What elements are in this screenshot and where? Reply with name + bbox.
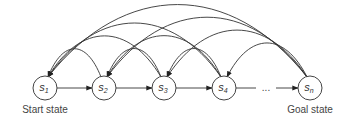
arc-sn-s4 [227,43,307,77]
arc-sn-s2 [107,17,307,77]
arc-s2-s1 [48,49,101,77]
arc-sn-s1 [48,5,307,77]
backward-arcs [48,5,307,77]
state-node-s3: s3 [152,76,176,100]
state-caption: Goal state [287,104,333,115]
ellipsis-label: ... [262,82,270,93]
arc-s4-s3 [167,49,221,77]
state-nodes: s1Start states2s3s4snGoal state [22,76,333,115]
arc-s4-s1 [48,23,221,77]
state-transition-diagram: s1Start states2s3s4snGoal state ... [0,0,355,122]
state-node-s2: s2 [92,76,116,100]
state-node-s1: s1Start state [22,76,68,115]
arc-s3-s2 [107,49,161,77]
state-caption: Start state [22,104,68,115]
state-node-s4: s4 [212,76,236,100]
state-node-sn: snGoal state [287,76,333,115]
